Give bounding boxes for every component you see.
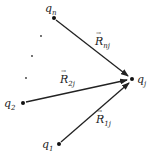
label-r2j: R2j bbox=[60, 74, 75, 88]
label-rnj-base: R bbox=[95, 36, 103, 47]
label-r1j-base: R bbox=[96, 114, 104, 125]
label-qn: qn bbox=[45, 3, 57, 17]
diagram-canvas bbox=[0, 0, 152, 157]
ellipsis-dot bbox=[25, 77, 27, 79]
charge-vector-diagram: qn qj q2 q1 Rnj R2j R1j bbox=[0, 0, 152, 157]
label-q1: q1 bbox=[42, 139, 54, 153]
label-r2j-base: R bbox=[60, 74, 68, 85]
label-q1-base: q bbox=[42, 138, 49, 151]
vector-arrow-rnj bbox=[56, 20, 128, 76]
label-q2: q2 bbox=[4, 98, 16, 112]
label-r1j: R1j bbox=[96, 114, 111, 128]
label-rnj: Rnj bbox=[95, 36, 110, 50]
label-r2j-sub: 2j bbox=[68, 80, 75, 88]
charge-point-qj bbox=[130, 77, 134, 81]
label-q2-sub: 2 bbox=[11, 104, 15, 112]
label-qj: qj bbox=[137, 74, 146, 88]
ellipsis-dot bbox=[31, 55, 33, 57]
label-qn-sub: n bbox=[52, 9, 57, 17]
label-rnj-sub: nj bbox=[103, 42, 110, 50]
label-r1j-sub: 1j bbox=[104, 120, 111, 128]
ellipsis-dot bbox=[40, 35, 42, 37]
label-qn-base: q bbox=[45, 2, 52, 15]
label-q1-sub: 1 bbox=[49, 145, 53, 153]
label-qj-base: q bbox=[137, 73, 144, 86]
label-qj-sub: j bbox=[144, 80, 146, 88]
label-q2-base: q bbox=[4, 97, 11, 110]
charge-point-q2 bbox=[21, 101, 25, 105]
charge-point-q1 bbox=[57, 142, 61, 146]
